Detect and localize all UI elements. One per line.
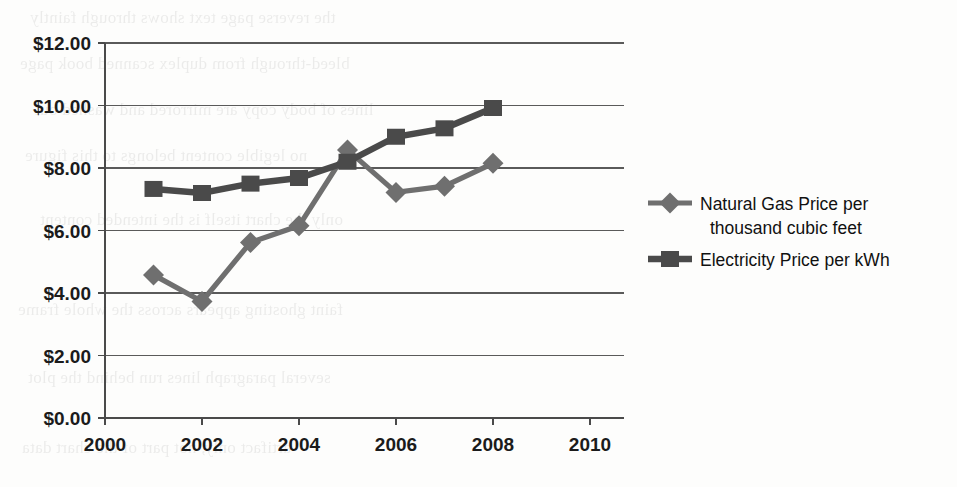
- series-natural-gas: [143, 139, 504, 312]
- x-axis-tick-label: 2006: [375, 434, 417, 455]
- data-point-marker-square: [193, 185, 211, 201]
- data-point-marker-diamond: [434, 176, 455, 197]
- legend-label-continued: thousand cubic feet: [710, 218, 862, 238]
- data-point-marker-square: [290, 170, 308, 186]
- data-point-marker-square: [145, 181, 163, 197]
- x-axis-tick-label: 2010: [569, 434, 611, 455]
- legend-label: Natural Gas Price per: [700, 194, 868, 214]
- y-axis-tick-label: $2.00: [43, 346, 91, 367]
- data-point-marker-square: [242, 176, 260, 192]
- x-axis-tick-label: 2000: [84, 434, 126, 455]
- y-axis-tick-label: $4.00: [43, 283, 91, 304]
- x-axis-tick-labels: 200020022004200620082010: [84, 434, 611, 455]
- x-axis-tick-label: 2002: [181, 434, 223, 455]
- chart-legend: Natural Gas Price perthousand cubic feet…: [648, 193, 890, 271]
- data-point-marker-diamond: [143, 264, 164, 285]
- y-axis-tick-label: $0.00: [43, 408, 91, 429]
- legend-marker-square: [661, 251, 679, 267]
- line-chart: $0.00$2.00$4.00$6.00$8.00$10.00$12.00 20…: [0, 0, 957, 487]
- data-point-marker-square: [484, 100, 502, 116]
- y-axis-tick-label: $6.00: [43, 221, 91, 242]
- data-point-marker-square: [436, 120, 454, 136]
- data-point-marker-square: [387, 129, 405, 145]
- y-axis-tick-label: $10.00: [33, 96, 91, 117]
- x-axis-tick-label: 2008: [472, 434, 514, 455]
- y-axis-tick-labels: $0.00$2.00$4.00$6.00$8.00$10.00$12.00: [33, 33, 91, 429]
- axis-group: [98, 43, 624, 425]
- legend-label: Electricity Price per kWh: [700, 250, 890, 270]
- chart-page: the reverse page text shows through fain…: [0, 0, 957, 487]
- data-point-marker-square: [339, 154, 357, 170]
- y-axis-tick-label: $12.00: [33, 33, 91, 54]
- y-axis-tick-label: $8.00: [43, 158, 91, 179]
- legend-marker-diamond: [660, 193, 681, 214]
- gridline-group: [105, 43, 624, 418]
- data-point-marker-diamond: [483, 153, 504, 174]
- x-axis-tick-label: 2004: [278, 434, 321, 455]
